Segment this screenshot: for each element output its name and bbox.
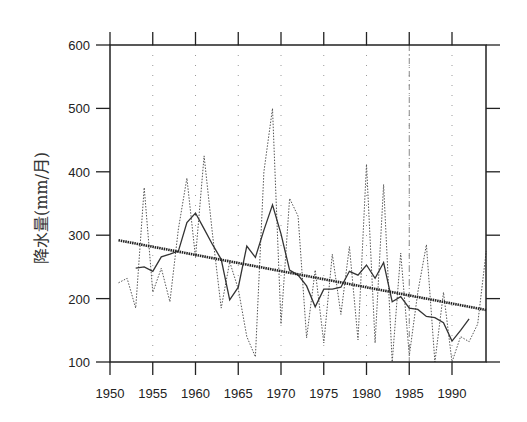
y-tick-label: 600	[68, 38, 90, 53]
y-tick-label: 300	[68, 228, 90, 243]
annual-precipitation-line	[119, 108, 487, 362]
line-chart: 195019551960196519701975198019851990 100…	[0, 0, 527, 422]
x-tick-label: 1980	[352, 386, 381, 401]
y-tick-label: 500	[68, 101, 90, 116]
annual-series	[119, 108, 487, 362]
x-tick-label: 1985	[395, 386, 424, 401]
y-tick-label: 200	[68, 292, 90, 307]
x-tick-label: 1975	[309, 386, 338, 401]
y-axis: 100200300400500600	[68, 38, 500, 370]
plot-border	[110, 45, 486, 362]
y-tick-label: 400	[68, 165, 90, 180]
trend-line	[119, 240, 487, 310]
x-tick-label: 1990	[438, 386, 467, 401]
plot-frame	[110, 45, 486, 362]
linear-trend-line	[119, 240, 487, 310]
x-tick-label: 1965	[224, 386, 253, 401]
grid-lines	[153, 45, 452, 362]
x-tick-label: 1955	[138, 386, 167, 401]
x-tick-label: 1960	[181, 386, 210, 401]
x-tick-label: 1970	[267, 386, 296, 401]
y-tick-label: 100	[68, 355, 90, 370]
x-tick-label: 1950	[96, 386, 125, 401]
